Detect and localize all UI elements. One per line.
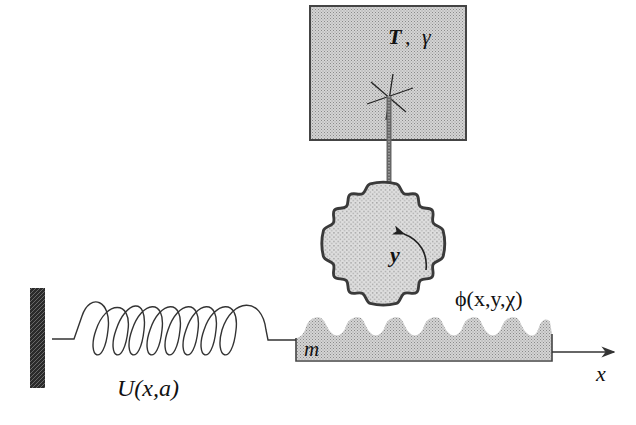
gear: y bbox=[322, 182, 445, 305]
damping-label: γ bbox=[422, 24, 432, 49]
mass-label: m bbox=[304, 337, 319, 361]
separator-label: , bbox=[405, 24, 411, 49]
fixed-wall bbox=[30, 288, 45, 388]
diagram-canvas: T , γ m y ϕ(x,y,χ) U(x,a) x bbox=[0, 0, 636, 425]
potential-label: ϕ(x,y,χ) bbox=[455, 286, 523, 311]
mass-block: m bbox=[296, 317, 552, 361]
gear-body bbox=[322, 182, 445, 305]
x-axis-label: x bbox=[595, 361, 606, 386]
spring-potential-label: U(x,a) bbox=[117, 375, 179, 401]
spring bbox=[52, 302, 296, 355]
temperature-label: T bbox=[388, 24, 403, 49]
